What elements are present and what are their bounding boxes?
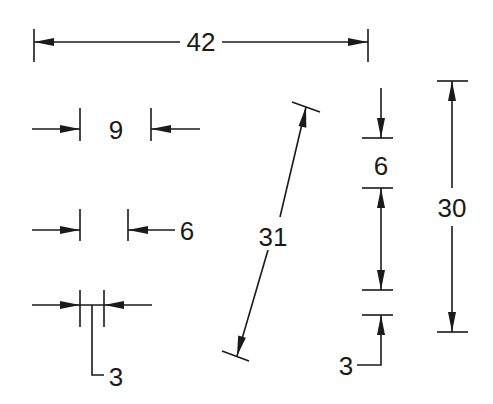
dimension-3-vertical: 3 bbox=[339, 290, 393, 381]
extension-tick-bottom bbox=[222, 351, 249, 361]
arrowhead-down-icon bbox=[448, 312, 456, 332]
arrowhead-up-icon bbox=[377, 188, 385, 208]
dimension-label: 9 bbox=[109, 115, 123, 145]
dimension-label: 30 bbox=[438, 193, 467, 223]
arrowhead-right-icon bbox=[128, 226, 148, 234]
dimension-6-horizontal: 6 bbox=[32, 209, 194, 246]
text-leader bbox=[92, 305, 104, 375]
arrowhead-bottom-icon bbox=[237, 336, 246, 356]
dimension-label: 31 bbox=[259, 222, 288, 252]
arrowhead-left-icon bbox=[60, 226, 80, 234]
dimension-30: 30 bbox=[437, 81, 468, 332]
arrowhead-up-icon bbox=[377, 315, 385, 335]
arrowhead-top-icon bbox=[299, 107, 307, 128]
dimension-6-vertical: 6 bbox=[362, 88, 393, 290]
arrowhead-down-icon bbox=[377, 118, 385, 138]
dimension-42: 42 bbox=[34, 27, 368, 62]
dimension-3-horizontal: 3 bbox=[32, 290, 152, 392]
arrowhead-down-icon bbox=[377, 270, 385, 290]
arrowhead-right-icon bbox=[348, 38, 368, 46]
text-leader bbox=[357, 315, 381, 365]
dimension-label: 3 bbox=[109, 362, 123, 392]
arrowhead-right-icon bbox=[151, 125, 171, 133]
dimension-label: 6 bbox=[180, 216, 194, 246]
arrowhead-up-icon bbox=[448, 81, 456, 101]
arrowhead-left-icon bbox=[60, 301, 80, 309]
dimension-label: 6 bbox=[374, 151, 388, 181]
dimension-diagram: 42 9 6 3 31 bbox=[0, 0, 493, 404]
arrowhead-left-icon bbox=[34, 38, 54, 46]
dimension-label: 42 bbox=[187, 27, 216, 57]
dimension-31: 31 bbox=[222, 102, 320, 361]
arrowhead-right-icon bbox=[104, 301, 124, 309]
dimension-9: 9 bbox=[32, 108, 200, 145]
dimension-label: 3 bbox=[339, 351, 353, 381]
arrowhead-left-icon bbox=[60, 125, 80, 133]
